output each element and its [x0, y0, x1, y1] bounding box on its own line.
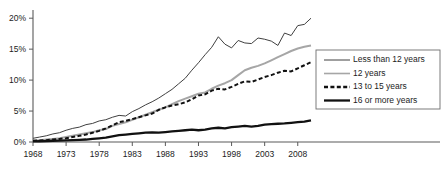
series-lines	[33, 18, 311, 141]
x-tick-label: 1998	[222, 149, 241, 159]
legend-label-3: 16 or more years	[353, 95, 417, 105]
x-tick-label: 1968	[24, 149, 43, 159]
x-tick-label: 1988	[156, 149, 175, 159]
legend-label-2: 13 to 15 years	[353, 81, 407, 91]
y-axis-ticks: 0%5%10%15%20%	[9, 13, 33, 147]
chart-legend: Less than 12 years12 years13 to 15 years…	[316, 50, 440, 109]
legend-label-1: 12 years	[353, 68, 386, 78]
series-line-0	[33, 18, 311, 138]
series-line-2	[33, 62, 311, 141]
x-axis-ticks: 196819731978198319881993199820032008	[24, 142, 308, 159]
x-tick-label: 2003	[255, 149, 274, 159]
series-line-3	[33, 120, 311, 141]
x-tick-label: 1983	[123, 149, 142, 159]
x-tick-label: 2008	[288, 149, 307, 159]
chart-canvas: 0%5%10%15%20% 19681973197819831988199319…	[0, 0, 446, 176]
x-tick-label: 1978	[90, 149, 109, 159]
y-tick-label: 15%	[9, 44, 26, 54]
y-tick-label: 0%	[14, 137, 27, 147]
line-chart: 0%5%10%15%20% 19681973197819831988199319…	[0, 0, 446, 176]
y-tick-label: 10%	[9, 75, 26, 85]
x-tick-label: 1973	[57, 149, 76, 159]
legend-label-0: Less than 12 years	[353, 54, 425, 64]
y-tick-label: 5%	[14, 106, 27, 116]
series-line-1	[33, 45, 311, 140]
y-tick-label: 20%	[9, 13, 26, 23]
x-tick-label: 1993	[189, 149, 208, 159]
